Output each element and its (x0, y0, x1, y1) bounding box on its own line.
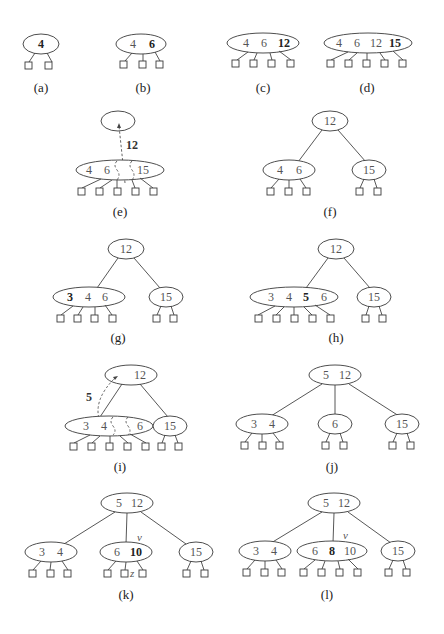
tree-node (236, 414, 288, 434)
svg-text:6: 6 (102, 290, 108, 304)
svg-text:4: 4 (286, 290, 292, 304)
svg-text:(c): (c) (256, 80, 270, 95)
svg-text:6: 6 (137, 419, 143, 433)
panel-l: 5 12 v 3 4 6 8 10 15 (l) (239, 493, 415, 602)
leaf-box (25, 62, 32, 69)
panel-e: 12 4 6 15 (e) (76, 111, 164, 219)
svg-text:(h): (h) (328, 330, 343, 345)
svg-text:5: 5 (116, 496, 122, 510)
svg-text:4: 4 (271, 544, 277, 558)
svg-text:4: 4 (101, 419, 107, 433)
svg-text:3: 3 (83, 419, 89, 433)
panel-j: 5 12 3 4 6 15 (j) (236, 365, 419, 474)
node-label-z: z (129, 567, 135, 579)
svg-text:(l): (l) (321, 587, 333, 602)
svg-text:10: 10 (130, 545, 142, 559)
panel-a: 4 (a) (23, 34, 59, 95)
svg-text:6: 6 (296, 163, 302, 177)
tree-node (101, 493, 153, 513)
tree-node (105, 365, 157, 385)
svg-text:(k): (k) (118, 587, 133, 602)
panel-i: 12 5 3 4 6 15 (i) (65, 365, 187, 474)
svg-text:4: 4 (243, 36, 249, 50)
svg-text:12: 12 (131, 496, 143, 510)
svg-text:6: 6 (312, 544, 318, 558)
svg-text:6: 6 (354, 36, 360, 50)
svg-text:3: 3 (251, 417, 257, 431)
panel-h: 12 3 4 5 6 15 (h) (250, 239, 391, 345)
key: 4 (38, 37, 44, 51)
svg-text:(f): (f) (324, 204, 337, 219)
svg-text:(e): (e) (113, 204, 127, 219)
svg-text:4: 4 (336, 36, 342, 50)
svg-text:5: 5 (323, 368, 329, 382)
svg-text:3: 3 (67, 290, 73, 304)
svg-text:12: 12 (370, 36, 382, 50)
svg-text:(i): (i) (114, 459, 126, 474)
moving-key-label: 12 (126, 138, 138, 152)
svg-text:12: 12 (324, 114, 336, 128)
panel-k: 5 12 v 3 4 6 10 z 15 (k) (25, 493, 213, 602)
svg-text:5: 5 (323, 496, 329, 510)
tree-node (308, 493, 360, 513)
svg-text:6: 6 (261, 36, 267, 50)
key: 4 (130, 37, 136, 51)
svg-text:(j): (j) (326, 459, 338, 474)
tree-insertion-figure: 4 (a) 4 6 (b) 4 6 12 (c) 4 6 12 15 (0, 0, 444, 634)
svg-text:12: 12 (134, 368, 146, 382)
moving-key-label: 5 (86, 390, 92, 404)
node-label-v: v (343, 529, 348, 541)
leaf-box (45, 62, 52, 69)
svg-text:15: 15 (164, 419, 176, 433)
panel-b: 4 6 (b) (116, 34, 166, 95)
svg-text:15: 15 (363, 163, 375, 177)
svg-text:3: 3 (253, 544, 259, 558)
svg-text:4: 4 (86, 163, 92, 177)
svg-text:15: 15 (396, 417, 408, 431)
caption: (a) (34, 80, 48, 95)
svg-text:4: 4 (277, 163, 283, 177)
caption: (b) (135, 80, 150, 95)
svg-text:4: 4 (57, 545, 63, 559)
svg-text:12: 12 (120, 242, 132, 256)
svg-text:12: 12 (330, 242, 342, 256)
node-label-v: v (137, 531, 142, 543)
svg-text:12: 12 (339, 368, 351, 382)
svg-text:4: 4 (85, 290, 91, 304)
svg-text:6: 6 (321, 290, 327, 304)
svg-text:6: 6 (332, 417, 338, 431)
tree-node (239, 541, 291, 561)
panel-f: 12 4 6 15 (f) (263, 111, 386, 219)
tree-node (100, 542, 152, 562)
svg-text:15: 15 (190, 545, 202, 559)
svg-text:15: 15 (392, 544, 404, 558)
svg-text:15: 15 (160, 290, 172, 304)
key: 6 (149, 37, 155, 51)
svg-text:(g): (g) (110, 330, 125, 345)
panel-g: 12 3 4 6 15 (g) (53, 239, 183, 345)
tree-node (116, 34, 166, 54)
svg-text:6: 6 (104, 163, 110, 177)
svg-text:12: 12 (338, 496, 350, 510)
svg-text:15: 15 (389, 36, 401, 50)
svg-text:8: 8 (329, 544, 335, 558)
tree-node (25, 542, 77, 562)
panel-c: 4 6 12 (c) (227, 33, 299, 95)
svg-text:3: 3 (268, 290, 274, 304)
svg-text:6: 6 (114, 545, 120, 559)
svg-text:12: 12 (278, 36, 290, 50)
tree-node (263, 160, 315, 180)
tree-node (309, 365, 361, 385)
svg-text:4: 4 (269, 417, 275, 431)
svg-text:5: 5 (303, 290, 309, 304)
svg-text:3: 3 (39, 545, 45, 559)
svg-text:10: 10 (344, 544, 356, 558)
panel-d: 4 6 12 15 (d) (324, 33, 412, 95)
svg-text:15: 15 (137, 163, 149, 177)
svg-text:(d): (d) (359, 80, 374, 95)
svg-text:15: 15 (368, 290, 380, 304)
